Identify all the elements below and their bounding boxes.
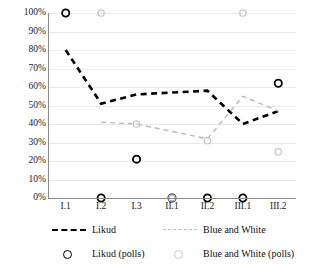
x-axis-line <box>48 198 296 199</box>
x-axis-tick-label: I.2 <box>84 201 118 212</box>
legend-row-polls: Likud (polls) Blue and White (polls) <box>0 243 310 264</box>
y-axis-tick-label: 50% <box>2 101 46 111</box>
y-axis-tick-label: 0% <box>2 193 46 203</box>
data-point-marker <box>62 9 69 16</box>
y-axis-tick-label: 80% <box>2 45 46 55</box>
legend-label-blue-and-white: Blue and White <box>203 224 266 235</box>
legend-item-blue-and-white[interactable]: Blue and White <box>163 219 266 240</box>
legend-label-blue-and-white-polls: Blue and White (polls) <box>203 248 294 259</box>
data-point-marker <box>133 156 140 163</box>
likud-polls-circle-icon <box>52 248 86 259</box>
blue-and-white-polls-circle-icon <box>163 248 197 259</box>
y-axis-tick-label: 60% <box>2 82 46 92</box>
legend-item-likud-polls[interactable]: Likud (polls) <box>52 243 145 264</box>
data-point-marker <box>98 10 104 16</box>
legend-item-likud[interactable]: Likud <box>52 219 116 240</box>
chart-legend: Likud Blue and White Likud (polls) B <box>0 219 310 267</box>
y-axis-line <box>48 13 49 198</box>
blue-and-white-line-swatch-icon <box>163 224 197 235</box>
legend-row-lines: Likud Blue and White <box>0 219 310 240</box>
y-axis-tick-label: 90% <box>2 27 46 37</box>
y-axis-tick-label: 40% <box>2 119 46 129</box>
likud-line-swatch-icon <box>52 224 86 235</box>
y-axis-tick-label: 30% <box>2 138 46 148</box>
x-axis-tick-label: II.2 <box>190 201 224 212</box>
chart-container: 100%90%80%70%60%50%40%30%20%10%0% I.1I.2… <box>0 0 310 268</box>
plot-area <box>48 13 296 198</box>
y-axis-tick-label: 10% <box>2 175 46 185</box>
x-axis-tick-label: I.1 <box>49 201 83 212</box>
series-line-blue-and-white <box>101 96 278 139</box>
y-axis-tick-label: 70% <box>2 64 46 74</box>
x-axis-tick-label: I.3 <box>120 201 154 212</box>
data-point-marker <box>275 80 282 87</box>
data-point-marker <box>240 10 246 16</box>
legend-item-blue-and-white-polls[interactable]: Blue and White (polls) <box>163 243 294 264</box>
legend-label-likud-polls: Likud (polls) <box>92 248 145 259</box>
series-line-likud <box>66 50 279 124</box>
legend-label-likud: Likud <box>92 224 116 235</box>
y-axis-tick-label: 100% <box>2 8 46 18</box>
y-axis-tick-labels: 100%90%80%70%60%50%40%30%20%10%0% <box>0 13 46 198</box>
x-axis-tick-label: III.1 <box>226 201 260 212</box>
x-axis-tick-label: III.2 <box>261 201 295 212</box>
y-axis-tick-label: 20% <box>2 156 46 166</box>
x-axis-tick-label: II.1 <box>155 201 189 212</box>
series-layer <box>48 13 296 198</box>
data-point-marker <box>275 149 281 155</box>
